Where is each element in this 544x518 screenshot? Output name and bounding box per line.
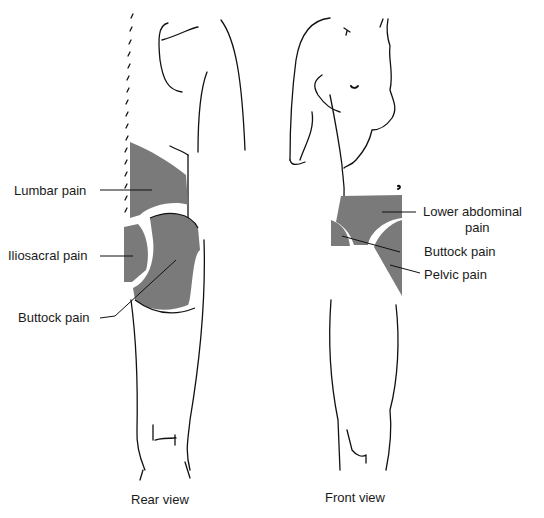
caption-rear-view: Rear view bbox=[131, 492, 189, 507]
label-buttock-pain-rear: Buttock pain bbox=[18, 310, 90, 325]
pelvic-region bbox=[374, 220, 402, 296]
label-lumbar-pain: Lumbar pain bbox=[14, 183, 86, 198]
label-lower-abdominal-pain-line2: pain bbox=[465, 220, 490, 235]
label-lower-abdominal-pain-line1: Lower abdominal bbox=[423, 204, 522, 219]
front-view-regions bbox=[331, 195, 402, 296]
caption-front-view: Front view bbox=[325, 490, 385, 505]
lumbar-region bbox=[130, 142, 188, 218]
iliosacral-region bbox=[124, 224, 148, 282]
label-buttock-pain-front: Buttock pain bbox=[424, 244, 496, 259]
label-pelvic-pain: Pelvic pain bbox=[424, 267, 487, 282]
label-iliosacral-pain: Iliosacral pain bbox=[8, 248, 88, 263]
